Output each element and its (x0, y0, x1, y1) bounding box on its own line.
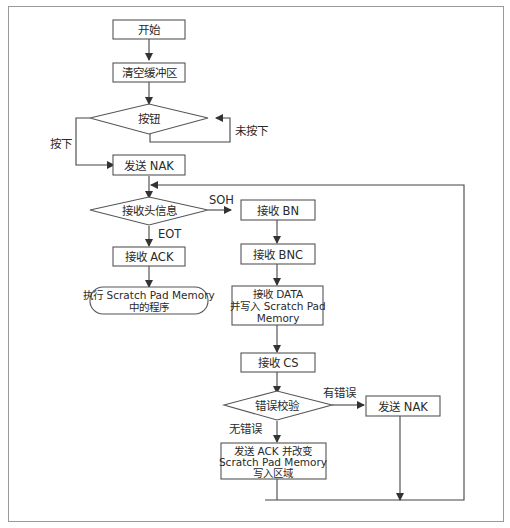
node-start: 开始 (113, 20, 185, 39)
edge-label-eot: EOT (158, 227, 182, 241)
svg-text:发送 NAK: 发送 NAK (378, 400, 428, 414)
node-send-ack: 发送 ACK 并改变 Scratch Pad Memory 写入区域 (219, 443, 327, 479)
svg-text:接收 BNC: 接收 BNC (253, 248, 303, 262)
edge-label-not-pressed: 未按下 (235, 124, 268, 138)
edge-label-soh: SOH (209, 193, 234, 207)
svg-text:发送 NAK: 发送 NAK (124, 159, 174, 173)
edge-label-no-error: 无错误 (229, 422, 263, 436)
node-recv-ack: 接收 ACK (113, 247, 185, 266)
svg-text:并写入 Scratch Pad: 并写入 Scratch Pad (230, 300, 325, 312)
node-recv-header-decision: 接收头信息 (90, 197, 208, 225)
svg-text:接收 ACK: 接收 ACK (125, 250, 174, 264)
svg-text:接收 DATA: 接收 DATA (253, 288, 304, 300)
svg-text:接收头信息: 接收头信息 (122, 204, 177, 218)
node-recv-bn: 接收 BN (241, 200, 315, 220)
svg-text:错误校验: 错误校验 (255, 399, 300, 413)
edge-label-pressed: 按下 (50, 137, 72, 151)
node-clear-buffer: 清空缓冲区 (113, 63, 185, 82)
svg-text:开始: 开始 (138, 23, 161, 37)
svg-text:按钮: 按钮 (138, 112, 161, 126)
node-send-nak-2: 发送 NAK (366, 396, 440, 416)
svg-text:Memory: Memory (257, 312, 300, 324)
node-send-nak-1: 发送 NAK (113, 155, 185, 175)
node-exec-program: 执行 Scratch Pad Memory 中的程序 (83, 287, 214, 314)
flowchart: 开始 清空缓冲区 按钮 发送 NAK 接收头信息 接收 ACK 执行 Scrat… (0, 0, 510, 528)
svg-text:中的程序: 中的程序 (129, 301, 169, 313)
svg-text:清空缓冲区: 清空缓冲区 (122, 66, 177, 80)
node-error-check-decision: 错误校验 (224, 391, 332, 420)
edge-label-has-error: 有错误 (323, 386, 357, 400)
svg-text:接收 CS: 接收 CS (258, 356, 299, 370)
node-button-decision: 按钮 (90, 104, 208, 134)
svg-text:写入区域: 写入区域 (253, 467, 294, 479)
node-recv-bnc: 接收 BNC (241, 244, 315, 264)
svg-text:执行 Scratch Pad Memory: 执行 Scratch Pad Memory (83, 289, 214, 301)
node-recv-cs: 接收 CS (241, 353, 315, 372)
svg-text:接收 BN: 接收 BN (257, 204, 299, 218)
node-recv-data: 接收 DATA 并写入 Scratch Pad Memory (230, 286, 325, 325)
